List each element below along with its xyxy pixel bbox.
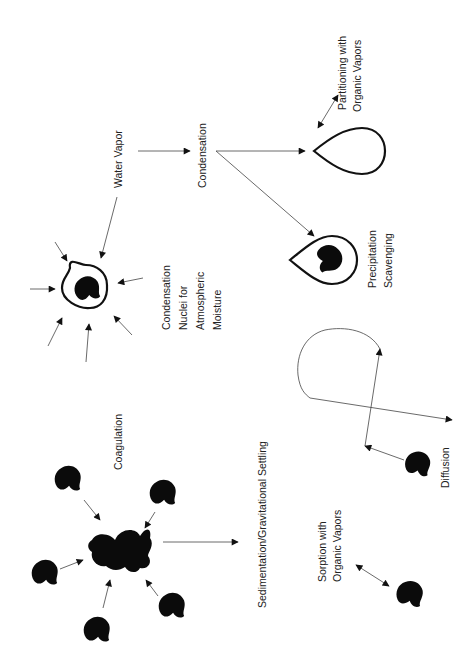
sorption-double-arrow [356, 565, 389, 586]
atmospheric-particle-processes-diagram: Water Vapor Condensation Partitioning wi… [0, 0, 475, 671]
cn-label-2: Nuclei for [177, 285, 189, 330]
sedimentation-label: Sedimentation/Gravitational Settling [256, 441, 268, 608]
water-vapor-to-nuclei-arrow [101, 197, 117, 258]
cn-label-1: Condensation [160, 265, 172, 330]
precipitation-label-1: Precipitation [366, 230, 378, 288]
diffusion-path [298, 329, 452, 460]
partitioning-double-arrow [318, 95, 338, 128]
cn-label-3: Atmospheric [194, 272, 206, 330]
diffusion-label: Diffusion [439, 447, 451, 488]
partitioning-label-2: Organic Vapors [351, 40, 363, 112]
sorption-particle-icon [395, 579, 425, 608]
droplet-icon [314, 128, 385, 174]
coagulation-label: Coagulation [112, 414, 124, 470]
coagulation-cluster-icon [88, 529, 152, 572]
sorption-label-2: Organic Vapors [331, 510, 343, 582]
partitioning-label-1: Partitioning with [336, 36, 348, 110]
water-vapor-label: Water Vapor [112, 130, 124, 188]
sorption-label-1: Sorption with [316, 521, 328, 582]
nucleus-particle-icon [72, 274, 101, 302]
precipitation-label-2: Scavenging [382, 233, 394, 288]
condensation-label: Condensation [196, 123, 208, 188]
diffusion-particle-icon [403, 449, 432, 477]
cn-label-4: Moisture [211, 290, 223, 330]
condensation-branches [216, 151, 314, 236]
particle-icon [314, 242, 345, 274]
nuclei-inbound-arrows [30, 242, 143, 362]
